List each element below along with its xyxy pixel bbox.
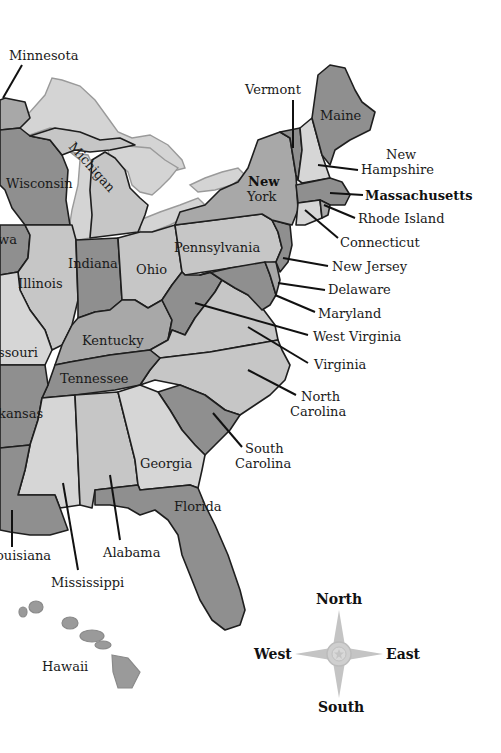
label-massachusetts: Massachusetts [365,188,473,203]
label-new-hampshire-2: Hampshire [361,162,434,177]
label-missouri: ssouri [0,345,38,360]
label-mississippi: Mississippi [51,575,124,590]
label-arkansas: kansas [0,406,43,421]
label-south-carolina-1: South [245,441,284,456]
label-hawaii: Hawaii [42,659,88,674]
label-indiana: Indiana [68,256,118,271]
label-maryland: Maryland [318,306,381,321]
hawaii-islands[interactable] [19,601,140,688]
label-tennessee: Tennessee [60,371,129,386]
label-alabama: Alabama [102,545,161,560]
label-louisiana: ouisiana [0,548,51,563]
label-west-virginia: West Virginia [313,329,402,344]
label-vermont: Vermont [244,82,302,97]
label-iowa: wa [0,232,17,247]
label-delaware: Delaware [328,282,391,297]
label-north-carolina-2: Carolina [290,404,346,419]
label-maine: Maine [320,108,362,123]
eastern-us-map: Minnesota Wisconsin Michigan wa Illinois… [0,0,501,753]
label-new-hampshire-1: New [386,147,416,162]
label-pennsylvania: Pennsylvania [174,240,260,255]
label-illinois: Illinois [18,276,63,291]
states [0,65,375,630]
label-wisconsin: Wisconsin [6,176,73,191]
compass-north: North [316,591,362,607]
label-connecticut: Connecticut [340,235,421,250]
compass-east: East [386,646,421,662]
label-south-carolina-2: Carolina [235,456,291,471]
label-minnesota: Minnesota [9,48,79,63]
label-georgia: Georgia [140,456,193,471]
label-kentucky: Kentucky [82,333,144,348]
label-rhode-island: Rhode Island [358,211,445,226]
compass-south: South [318,699,364,715]
label-north-carolina-1: North [301,389,341,404]
label-ohio: Ohio [136,262,167,277]
label-new-york-1: New [248,174,280,189]
label-new-jersey: New Jersey [332,259,408,274]
compass-rose-icon [295,610,383,698]
label-virginia: Virginia [313,357,367,372]
label-new-york-2: York [246,189,276,204]
compass-west: West [253,646,292,662]
label-florida: Florida [174,499,222,514]
